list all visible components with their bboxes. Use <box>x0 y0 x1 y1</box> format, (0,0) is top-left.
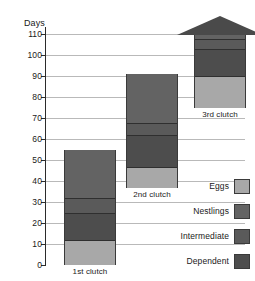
bar-3 <box>194 34 246 108</box>
legend-swatch <box>234 229 250 244</box>
legend-swatch <box>234 179 250 194</box>
legend-label: Nestlings <box>193 206 229 216</box>
legend-item-eggs: Eggs <box>150 176 250 196</box>
bar-label-1: 1st clutch <box>56 267 124 276</box>
bar-segment-dependent <box>127 135 177 167</box>
y-tick-label: 10 <box>32 239 42 249</box>
y-axis-title: Days <box>24 18 45 28</box>
y-tick-label: 80 <box>32 92 42 102</box>
bar-segment-intermediate <box>127 123 177 136</box>
y-tick-label: 40 <box>32 176 42 186</box>
legend-swatch <box>234 204 250 219</box>
y-tick-label: 60 <box>32 134 42 144</box>
legend-item-dependent: Dependent <box>150 251 250 271</box>
y-tick-label: 90 <box>32 71 42 81</box>
bar-1 <box>64 150 116 266</box>
y-tick-label: 0 <box>37 260 42 270</box>
stacked-bar-chart: Days 0102030405060708090100110 1st clutc… <box>0 0 255 281</box>
y-tick-label: 30 <box>32 197 42 207</box>
y-tick-label: 70 <box>32 113 42 123</box>
chart-legend: EggsNestlingsIntermediateDependent <box>150 176 250 279</box>
bar-segment-dependent <box>65 213 115 240</box>
y-tick-label: 50 <box>32 155 42 165</box>
y-tick-label: 20 <box>32 218 42 228</box>
bar-segment-nestlings <box>65 150 115 198</box>
bar-segment-intermediate <box>65 198 115 213</box>
y-tick-label: 100 <box>28 50 42 60</box>
legend-swatch <box>234 254 250 269</box>
bar-segment-nestlings <box>127 74 177 122</box>
bar-segment-eggs <box>195 76 245 108</box>
bar-segment-eggs <box>65 240 115 265</box>
bar-label-3: 3rd clutch <box>186 110 254 119</box>
legend-item-nestlings: Nestlings <box>150 201 250 221</box>
legend-label: Dependent <box>187 256 230 266</box>
legend-item-intermediate: Intermediate <box>150 226 250 246</box>
legend-label: Eggs <box>209 181 229 191</box>
y-tick-label: 110 <box>28 29 42 39</box>
bar-arrow-up-icon <box>177 16 255 35</box>
legend-label: Intermediate <box>181 231 229 241</box>
bar-segment-intermediate <box>195 39 245 50</box>
bar-2 <box>126 74 178 187</box>
bar-segment-dependent <box>195 49 245 76</box>
